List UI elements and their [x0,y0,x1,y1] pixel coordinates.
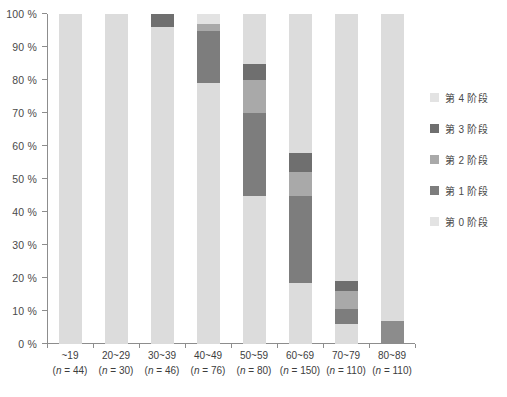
bar-segment[interactable] [197,31,220,84]
x-axis-label: 80~89(n = 110) [362,348,422,378]
y-tick-label: 20 % [12,272,37,284]
legend-swatch [430,155,439,164]
bar-segment[interactable] [335,14,358,281]
legend-label: 第 4 阶段 [445,90,488,105]
legend-swatch [430,217,439,226]
bar-segment[interactable] [243,64,266,81]
y-tick-label: 30 % [12,239,37,251]
stacked-bar-chart: 0 %10 %20 %30 %40 %50 %60 %70 %80 %90 %1… [0,0,507,397]
bar-segment[interactable] [289,153,312,173]
bar-segment[interactable] [59,14,82,344]
bar-segment[interactable] [105,14,128,344]
y-tick-label: 10 % [12,305,37,317]
bar-segment[interactable] [197,14,220,24]
bar-segment[interactable] [335,324,358,344]
bar-segment[interactable] [289,283,312,344]
bar-segment[interactable] [243,113,266,196]
legend-swatch [430,93,439,102]
bar-5059[interactable] [243,14,266,344]
bar-3039[interactable] [151,14,174,344]
legend-label: 第 1 阶段 [445,183,488,198]
y-tick-label: 100 % [6,8,37,20]
legend-label: 第 0 阶段 [445,214,488,229]
bar-segment[interactable] [335,281,358,291]
x-axis-labels: ~19(n = 44)20~29(n = 30)30~39(n = 46)40~… [47,348,415,392]
legend-item[interactable]: 第 2 阶段 [430,144,505,175]
bar-segment[interactable] [243,14,266,64]
x-axis-label-range: 80~89 [362,348,422,363]
y-tick-label: 0 % [18,338,37,350]
bar-segment[interactable] [243,80,266,113]
y-tick-label: 80 % [12,74,37,86]
legend-label: 第 3 阶段 [445,121,488,136]
legend-swatch [430,124,439,133]
bar-segment[interactable] [335,291,358,309]
legend-item[interactable]: 第 3 阶段 [430,113,505,144]
bar-2029[interactable] [105,14,128,344]
bar-segment[interactable] [289,172,312,195]
bar-segment[interactable] [381,321,404,344]
bar-segment[interactable] [335,309,358,324]
y-tick-label: 70 % [12,107,37,119]
chart-legend: 第 4 阶段第 3 阶段第 2 阶段第 1 阶段第 0 阶段 [430,82,505,237]
bar-19[interactable] [59,14,82,344]
y-tick-label: 40 % [12,206,37,218]
bar-segment[interactable] [289,14,312,153]
bars-layer [47,14,415,344]
x-axis-label-count: (n = 110) [362,363,422,378]
bar-6069[interactable] [289,14,312,344]
bar-7079[interactable] [335,14,358,344]
legend-swatch [430,186,439,195]
bar-4049[interactable] [197,14,220,344]
bar-segment[interactable] [151,27,174,344]
bar-segment[interactable] [243,196,266,345]
bar-segment[interactable] [197,24,220,31]
y-tick-label: 60 % [12,140,37,152]
bar-segment[interactable] [151,14,174,27]
bar-segment[interactable] [289,196,312,283]
bar-8089[interactable] [381,14,404,344]
bar-segment[interactable] [197,83,220,344]
bar-segment[interactable] [381,14,404,321]
legend-label: 第 2 阶段 [445,152,488,167]
plot-area: 0 %10 %20 %30 %40 %50 %60 %70 %80 %90 %1… [47,14,415,344]
legend-item[interactable]: 第 0 阶段 [430,206,505,237]
y-tick-label: 50 % [12,173,37,185]
legend-item[interactable]: 第 4 阶段 [430,82,505,113]
legend-item[interactable]: 第 1 阶段 [430,175,505,206]
y-tick-label: 90 % [12,41,37,53]
